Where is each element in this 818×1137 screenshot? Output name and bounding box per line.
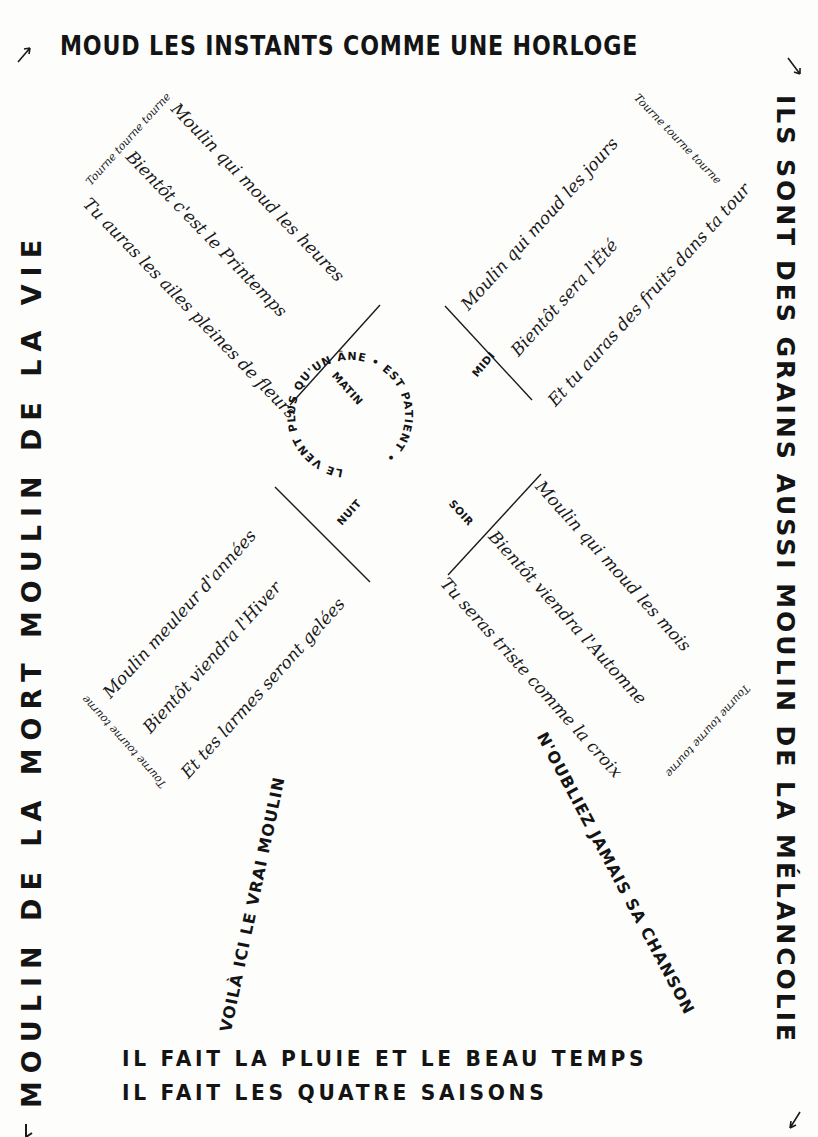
hub-circle: LE VENT PLUS QU'UN ÂNE • EST PATIENT •	[0, 0, 818, 1137]
svg-text:LE VENT PLUS QU'UN ÂNE • EST P: LE VENT PLUS QU'UN ÂNE • EST PATIENT •	[285, 350, 415, 480]
calligram-page: MOUD LES INSTANTS COMME UNE HORLOGE ILS …	[0, 0, 818, 1137]
hub-circle-text: LE VENT PLUS QU'UN ÂNE • EST PATIENT •	[285, 350, 415, 480]
